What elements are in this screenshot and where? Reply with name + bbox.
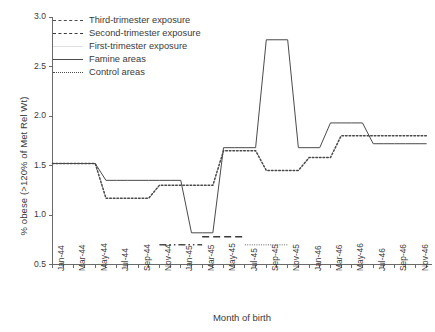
x-tick-label: Nov-46 (420, 244, 430, 271)
x-axis-title: Month of birth (52, 312, 432, 323)
legend-entry-third-trimester: Third-trimester exposure (53, 14, 239, 27)
x-tick-label: Sep-45 (270, 243, 280, 270)
legend-label: First-trimester exposure (89, 40, 187, 53)
legend-swatch-dotted-icon (53, 72, 83, 73)
y-tick-label: 2.5 (20, 61, 46, 71)
x-tick-label: Jul-46 (377, 248, 387, 271)
legend-entry-famine-areas: Famine areas (53, 53, 239, 66)
x-tick-label: Nov-45 (291, 244, 301, 271)
y-tick-marks (49, 17, 53, 265)
y-tick-label: 0.5 (20, 259, 46, 269)
legend-label: Third-trimester exposure (89, 14, 190, 27)
legend-swatch-light-solid-icon (53, 46, 83, 47)
x-tick-label: May-44 (99, 243, 109, 271)
legend-entry-control-areas: Control areas (53, 66, 239, 79)
legend-label: Second-trimester exposure (89, 27, 201, 40)
x-tick-label: Mar-44 (77, 244, 87, 271)
legend-entry-first-trimester: First-trimester exposure (53, 40, 239, 53)
x-tick-label: Mar-45 (206, 244, 216, 271)
chart-figure: Third-trimester exposure Second-trimeste… (0, 0, 435, 332)
x-tick-label: Sep-46 (398, 243, 408, 270)
x-tick-label: Mar-46 (334, 244, 344, 271)
legend-swatch-dashed-icon (53, 33, 83, 34)
legend-swatch-solid-icon (53, 59, 83, 60)
x-tick-label: Jan-45 (184, 245, 194, 271)
x-tick-label: Nov-44 (163, 244, 173, 271)
series-line (53, 136, 427, 198)
y-tick-label: 1.5 (20, 160, 46, 170)
x-tick-label: Jul-45 (249, 248, 259, 271)
y-tick-label: 3.0 (20, 11, 46, 21)
x-tick-label: Jan-44 (56, 245, 66, 271)
x-tick-label: Jan-46 (313, 245, 323, 271)
x-tick-label: Jul-44 (120, 248, 130, 271)
chart-legend: Third-trimester exposure Second-trimeste… (53, 14, 239, 80)
legend-entry-second-trimester: Second-trimester exposure (53, 27, 239, 40)
exposure-bars-layer (159, 237, 287, 245)
x-tick-label: Sep-44 (142, 243, 152, 270)
y-tick-label: 2.0 (20, 110, 46, 120)
y-tick-label: 1.0 (20, 209, 46, 219)
legend-label: Control areas (89, 66, 145, 79)
x-tick-label: May-46 (355, 243, 365, 271)
legend-label: Famine areas (89, 53, 146, 66)
legend-swatch-dash-dot-dot-icon (53, 20, 83, 21)
x-tick-label: May-45 (227, 243, 237, 271)
